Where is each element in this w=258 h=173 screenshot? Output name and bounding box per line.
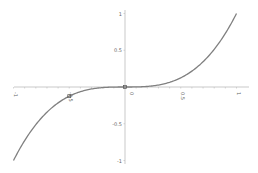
x-tick-label: 0.5 xyxy=(180,92,186,100)
y-tick-label: -1 xyxy=(117,158,122,164)
x-tick-label: 1 xyxy=(236,92,242,95)
y-tick-label: -0.5 xyxy=(112,121,122,127)
x-tick-label: 0 xyxy=(129,92,135,95)
x-tick-label: -1 xyxy=(13,92,19,97)
y-tick-label: 0.5 xyxy=(114,47,122,53)
y-tick-label: 1 xyxy=(119,11,122,17)
cubic-function-plot: -1-0.500.5110.5-0.5-1 xyxy=(0,0,258,173)
